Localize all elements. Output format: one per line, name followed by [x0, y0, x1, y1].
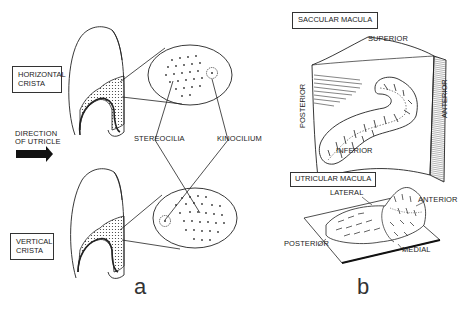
stereocilia-label: STEREOCILIA	[134, 135, 185, 143]
saccular-anterior-label: ANTERIOR	[440, 79, 449, 118]
saccular-inferior-label: INFERIOR	[336, 147, 373, 155]
vertical-crista-cells	[78, 216, 124, 272]
utricular-medial-label: MEDIAL	[402, 246, 431, 254]
panel-letter-a: a	[134, 274, 146, 300]
saccular-superior-label: SUPERIOR	[368, 35, 408, 43]
panel-letter-b: b	[357, 274, 369, 300]
horizontal-crista-cells	[80, 76, 124, 130]
horizontal-crista-label: HORIZONTAL CRISTA	[12, 66, 62, 93]
diagram-canvas	[0, 0, 462, 314]
saccular-macula-title: SACCULAR MACULA	[292, 12, 378, 29]
utricular-posterior-label: POSTERIOR	[284, 240, 329, 248]
kinocilium-label: KINOCILIUM	[217, 135, 262, 143]
vertical-crista-label: VERTICAL CRISTA	[10, 233, 54, 260]
direction-label: DIRECTION OF UTRICLE	[15, 130, 61, 146]
utricular-macula-title: UTRICULAR MACULA	[290, 172, 376, 187]
saccular-posterior-label: POSTERIOR	[298, 84, 307, 128]
utricular-lateral-label: LATERAL	[330, 189, 364, 197]
hair-bundle-top	[148, 45, 232, 105]
utricular-anterior-label: ANTERIOR	[418, 196, 458, 204]
saccular-macula-block	[312, 37, 446, 182]
hair-bundle-bottom	[153, 188, 237, 248]
direction-arrow-icon	[16, 146, 53, 162]
